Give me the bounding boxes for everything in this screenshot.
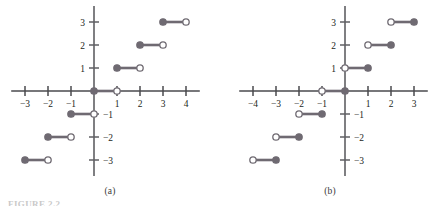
x-axis-tick-label: 1 [366,99,371,109]
x-axis-tick-label: 2 [389,99,394,109]
closed-endpoint-dot [365,65,371,71]
x-axis-tick-label: 2 [138,99,143,109]
open-endpoint-dot [45,157,51,163]
step-segment [22,157,51,163]
x-axis-tick-label: 3 [412,99,417,109]
closed-endpoint-dot [22,157,28,163]
step-segment [296,111,325,117]
closed-endpoint-dot [319,111,325,117]
plot-surface-b: −4−3−2−1123321−1−2−3 [220,0,440,206]
step-segment [273,134,302,140]
closed-endpoint-dot [68,111,74,117]
step-segment [365,42,394,48]
step-segment [388,19,417,25]
step-segment [250,157,279,163]
closed-endpoint-dot [296,134,302,140]
y-axis-tick-label: −3 [354,156,364,166]
closed-endpoint-dot [388,42,394,48]
panel-b-caption: (b) [220,186,440,196]
y-axis-tick-label: −1 [103,110,113,120]
x-axis-tick-label: 4 [184,99,189,109]
open-endpoint-dot [160,42,166,48]
open-endpoint-dot [68,134,74,140]
x-axis-tick-label: −1 [317,99,327,109]
panel-b: −4−3−2−1123321−1−2−3 (b) [220,0,440,206]
step-segment [137,42,166,48]
open-endpoint-dot [183,19,189,25]
open-endpoint-dot [296,111,302,117]
step-segment [319,88,348,94]
closed-endpoint-dot [273,157,279,163]
x-axis-tick-label: −1 [66,99,76,109]
closed-endpoint-dot [137,42,143,48]
y-axis-tick-label: −2 [103,133,113,143]
open-endpoint-dot [91,111,97,117]
y-axis-tick-label: 3 [80,18,85,28]
closed-endpoint-dot [114,65,120,71]
closed-endpoint-dot [160,19,166,25]
step-segment [68,111,97,117]
y-axis-tick-label: 3 [331,18,336,28]
x-axis-tick-label: −4 [248,99,258,109]
x-axis-tick-label: −3 [20,99,30,109]
open-endpoint-dot [342,65,348,71]
y-axis-tick-label: −2 [354,133,364,143]
step-segment [342,65,371,71]
open-endpoint-dot [250,157,256,163]
x-axis-tick-label: −3 [271,99,281,109]
open-endpoint-dot [388,19,394,25]
x-axis-tick-label: 1 [115,99,120,109]
ceiling-function-plot: −4−3−2−1123321−1−2−3 [220,0,440,206]
figure-caption-fragment: FIGURE 2.2 [8,199,61,206]
open-endpoint-dot [365,42,371,48]
figure-container: −3−2−11234321−1−2−3 (a) −4−3−2−1123321−1… [0,0,441,206]
y-axis-tick-label: 2 [331,41,336,51]
floor-function-plot: −3−2−11234321−1−2−3 [0,0,220,206]
panel-a-caption: (a) [0,186,220,196]
closed-endpoint-dot [91,88,97,94]
closed-endpoint-dot [45,134,51,140]
x-axis-tick-label: −2 [43,99,53,109]
x-axis-tick-label: 3 [161,99,166,109]
open-endpoint-dot [137,65,143,71]
panel-a: −3−2−11234321−1−2−3 (a) [0,0,220,206]
step-segment [160,19,189,25]
closed-endpoint-dot [411,19,417,25]
y-axis-tick-label: −3 [103,156,113,166]
x-axis-tick-label: −2 [294,99,304,109]
closed-endpoint-dot [342,88,348,94]
step-segment [91,88,120,94]
step-segment [45,134,74,140]
y-axis-tick-label: 1 [80,64,85,74]
plot-surface-a: −3−2−11234321−1−2−3 [0,0,220,206]
y-axis-tick-label: 1 [331,64,336,74]
y-axis-tick-label: −1 [354,110,364,120]
step-segment [114,65,143,71]
open-endpoint-dot [114,88,120,94]
open-endpoint-dot [273,134,279,140]
y-axis-tick-label: 2 [80,41,85,51]
open-endpoint-dot [319,88,325,94]
